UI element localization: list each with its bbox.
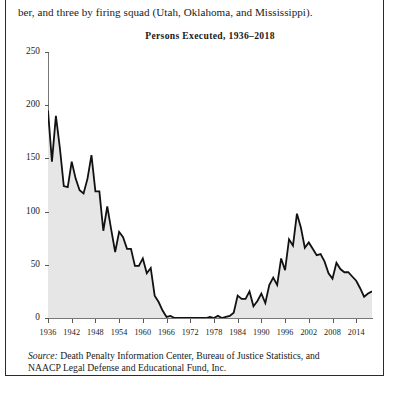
x-axis-tick-mark bbox=[214, 319, 215, 323]
x-axis-tick-mark bbox=[356, 319, 357, 323]
x-axis-tick-mark bbox=[48, 319, 49, 323]
y-axis-tick-mark bbox=[45, 158, 49, 159]
source-label: Source: bbox=[28, 350, 58, 361]
x-axis-tick-label: 2014 bbox=[341, 328, 371, 337]
x-axis-tick-mark bbox=[119, 319, 120, 323]
y-axis-tick-mark bbox=[45, 105, 49, 106]
x-axis-tick-mark bbox=[167, 319, 168, 323]
source-text-line1: Death Penalty Information Center, Bureau… bbox=[58, 350, 320, 361]
x-axis-line bbox=[48, 318, 373, 319]
plot-area bbox=[48, 52, 372, 318]
x-axis-tick-mark bbox=[261, 319, 262, 323]
y-axis-tick-mark bbox=[45, 212, 49, 213]
y-axis-tick-mark bbox=[45, 265, 49, 266]
y-axis-tick-label: 0 bbox=[14, 313, 40, 322]
x-axis-tick-mark bbox=[285, 319, 286, 323]
executions-area-chart: 050100150200250 193619421948195419601966… bbox=[0, 0, 404, 395]
source-text-line2: NAACP Legal Defense and Educational Fund… bbox=[28, 362, 226, 373]
y-axis-tick-mark bbox=[45, 52, 49, 53]
y-axis-tick-label: 250 bbox=[14, 47, 40, 56]
data-series-area bbox=[48, 52, 372, 318]
y-axis-tick-label: 50 bbox=[14, 260, 40, 269]
x-axis-tick-mark bbox=[333, 319, 334, 323]
x-axis-tick-mark bbox=[190, 319, 191, 323]
y-axis-tick-label: 150 bbox=[14, 153, 40, 162]
y-axis-tick-label: 100 bbox=[14, 207, 40, 216]
source-note: Source: Death Penalty Information Center… bbox=[28, 350, 372, 375]
x-axis-tick-mark bbox=[309, 319, 310, 323]
x-axis-tick-mark bbox=[72, 319, 73, 323]
x-axis-tick-mark bbox=[238, 319, 239, 323]
y-axis-tick-label: 200 bbox=[14, 100, 40, 109]
x-axis-tick-mark bbox=[143, 319, 144, 323]
area-fill-path bbox=[48, 111, 372, 318]
x-axis-tick-mark bbox=[95, 319, 96, 323]
page-container: ber, and three by firing squad (Utah, Ok… bbox=[0, 0, 404, 395]
